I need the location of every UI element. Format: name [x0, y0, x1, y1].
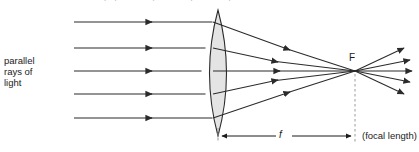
parallel-rays-label: parallel rays of light — [4, 55, 35, 88]
incoming-rays — [74, 22, 213, 118]
refracted-ray-tail — [276, 71, 355, 80]
diverging-ray — [355, 48, 404, 71]
refracted-rays — [213, 22, 355, 118]
diverging-ray — [355, 71, 410, 82]
diverging-ray — [355, 60, 410, 71]
focal-length-caption-label: (focal length) — [362, 130, 417, 141]
ray-diagram-canvas — [0, 0, 419, 152]
lens-shape — [210, 10, 227, 136]
focal-length-symbol-label: f — [277, 129, 284, 140]
diverging-rays — [355, 48, 412, 94]
ray-diagram-figure: r r r r r parallel rays of light F f (fo… — [0, 0, 419, 152]
focal-point-label: F — [349, 52, 355, 63]
refracted-ray-tail — [276, 62, 355, 71]
cropped-top-text: r r r r r — [104, 0, 232, 3]
converging-lens — [210, 10, 227, 136]
refracted-ray-tail — [288, 71, 355, 93]
refracted-ray-tail — [288, 49, 355, 71]
diverging-ray — [355, 71, 404, 94]
cropped-top-text-strip: r r r r r — [0, 0, 419, 4]
